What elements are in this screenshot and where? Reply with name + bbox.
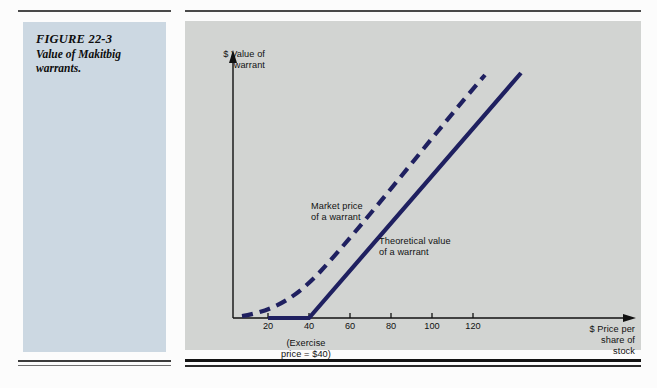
x-tick-label-80: 80 [376, 321, 406, 331]
theoretical-value-annotation: Theoretical value of a warrant [379, 236, 489, 258]
chart-bottom-rule [185, 359, 641, 362]
theoretical-value-line [268, 73, 521, 318]
x-tick-label-40: 40 [294, 321, 324, 331]
y-axis-label-line2: warrant [234, 60, 265, 70]
figure-caption: FIGURE 22-3 Value of Makitbig warrants. [36, 32, 160, 75]
y-axis-label-line1: $ Value of [223, 49, 265, 59]
theoretical-value-label-line2: of a warrant [379, 247, 429, 257]
figure-number: FIGURE 22-3 [36, 32, 160, 47]
caption-column: FIGURE 22-3 Value of Makitbig warrants. [18, 10, 171, 362]
y-axis-label: $ Value of warrant [203, 49, 265, 71]
x-axis-arrowhead [623, 314, 636, 322]
exercise-price-line1: (Exercise [286, 338, 325, 348]
market-price-annotation: Market price of a warrant [311, 201, 406, 223]
caption-top-rule [18, 10, 171, 12]
chart-panel: $ Value of warrant 20 40 60 80 100 120 $… [185, 21, 641, 350]
x-tick-label-60: 60 [335, 321, 365, 331]
figure-page: FIGURE 22-3 Value of Makitbig warrants. [0, 0, 657, 388]
market-price-label-line2: of a warrant [311, 212, 361, 222]
exercise-price-line2: price = $40) [281, 349, 331, 359]
x-axis-label-line2: share of [601, 335, 635, 345]
x-tick-label-20: 20 [253, 321, 283, 331]
caption-panel: FIGURE 22-3 Value of Makitbig warrants. [23, 22, 166, 352]
chart-column: $ Value of warrant 20 40 60 80 100 120 $… [185, 10, 641, 362]
theoretical-value-label-line1: Theoretical value [379, 236, 451, 246]
x-tick-label-100: 100 [417, 321, 447, 331]
chart-bottom-rule-2 [185, 365, 641, 367]
market-price-label-line1: Market price [311, 201, 363, 211]
x-tick-label-120: 120 [458, 321, 488, 331]
x-axis-label: $ Price per share of stock [555, 324, 635, 357]
x-axis-label-line1: $ Price per [589, 324, 635, 334]
caption-bottom-rule [18, 360, 171, 362]
figure-title: Value of Makitbig warrants. [36, 48, 160, 75]
market-price-curve [242, 75, 485, 316]
x-axis-label-line3: stock [613, 346, 635, 356]
exercise-price-note: (Exercise price = $40) [251, 338, 361, 360]
chart-top-rule [185, 10, 641, 12]
caption-bottom-rule-2 [18, 365, 171, 366]
